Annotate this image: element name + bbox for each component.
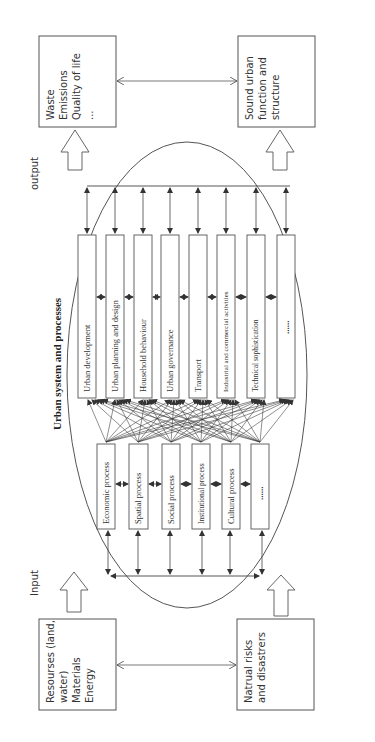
function-box-urban-development: Urban development [78, 235, 96, 398]
svg-text:Institutional process: Institutional process [197, 463, 206, 524]
output-box-waste: Waste Emissions Quality of life ... [39, 36, 116, 127]
svg-text:Natrual risks and disast: Natrual risks and disastrers [243, 632, 267, 703]
input-arrow-left [60, 572, 88, 612]
input-arrow-right [267, 575, 295, 616]
svg-text:Spatial process: Spatial process [133, 473, 143, 524]
svg-text:......: ...... [281, 321, 291, 335]
svg-text:Urban governance: Urban governance [165, 329, 175, 392]
output-arrow-left [61, 130, 89, 170]
svg-text:Technical sophistication: Technical sophistication [251, 319, 260, 392]
svg-text:Household behaviour: Household behaviour [138, 319, 148, 392]
svg-text:Waste Emissions Qu: Waste Emissions Quality of life ... [45, 50, 95, 120]
function-box-more: ...... [277, 235, 295, 398]
svg-text:Sound urban function and: Sound urban function and structure [244, 53, 281, 120]
process-box-social: Social process [162, 444, 180, 529]
urban-system-ellipse [67, 142, 307, 608]
function-box-urban-governance: Urban governance [161, 235, 179, 398]
process-box-cultural: Cultural process [222, 444, 240, 529]
svg-text:Cultural process: Cultural process [226, 469, 236, 524]
function-box-household-behaviour: Household behaviour [134, 235, 152, 398]
function-box-transport: Transport [189, 235, 207, 398]
output-arrow-right [266, 130, 294, 170]
svg-text:Urban development: Urban development [82, 324, 92, 392]
bottom-bus-connectors [108, 531, 262, 574]
svg-text:Social process: Social process [166, 475, 176, 524]
svg-text:......: ...... [255, 487, 265, 501]
process-box-spatial: Spatial process [129, 444, 148, 529]
function-box-urban-planning: Urban planning and design [106, 235, 124, 398]
function-box-industrial-commercial: Industrial and commercial activities [217, 235, 235, 398]
urban-system-diagram: Waste Emissions Quality of life ... Soun… [0, 0, 375, 742]
function-box-technical-sophistication: Technical sophistication [247, 235, 265, 398]
process-boxes: Economic process Spatial process Social … [97, 444, 269, 529]
process-box-institutional: Institutional process [192, 444, 210, 529]
system-title: Urban system and processes [51, 297, 63, 430]
process-box-economic: Economic process [97, 444, 115, 529]
top-bus-connectors [87, 188, 286, 233]
urban-function-boxes: Urban development Urban planning and des… [78, 235, 295, 398]
input-box-resources: Resourses (land, water) Materials Energy [39, 617, 116, 710]
input-box-natural-risks: Natrual risks and disastrers [237, 619, 314, 710]
svg-text:Urban planning and design: Urban planning and design [110, 299, 120, 392]
svg-text:Economic process: Economic process [101, 462, 111, 524]
process-box-more: ...... [251, 444, 269, 529]
input-label: Input [29, 570, 40, 596]
svg-text:Resourses (land, water): Resourses (land, water) Materials Energy [45, 617, 95, 703]
process-to-function-arrows [88, 400, 293, 442]
output-label: output [29, 157, 40, 190]
svg-text:Industrial and commercial acti: Industrial and commercial activities [222, 291, 230, 392]
svg-text:Transport: Transport [193, 359, 203, 392]
output-box-sound-urban: Sound urban function and structure [238, 36, 315, 127]
